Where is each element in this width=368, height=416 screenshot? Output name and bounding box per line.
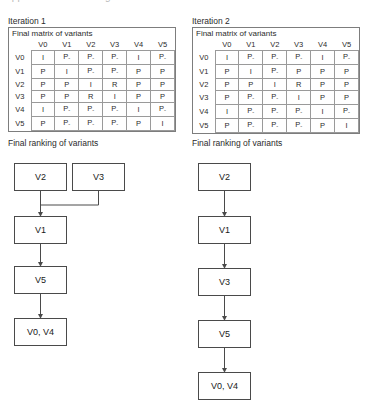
iteration-title-1: Iteration 1 [8,16,46,26]
ranking-node: V0, V4 [198,372,251,400]
matrix-cell: P [31,79,55,91]
matrix-cell: P [215,91,239,105]
matrix-cell: P [215,119,239,133]
matrix-cell: P [215,79,239,91]
matrix-cell: P [151,65,175,79]
matrix-cell: P- [55,103,79,117]
matrix-cell: P [311,119,335,133]
matrix-cell: I [103,91,127,103]
matrix-row-header: V1 [9,65,31,79]
matrix-cell: P- [151,51,175,65]
matrix-cell: R [79,91,103,103]
variant-matrix-2: V0 V1 V2 V3 V4 V5 V0IP-P-P-IP-V1PIP-PPPV… [193,39,359,133]
matrix-cell: P- [287,51,311,65]
ranking-title-1: Final ranking of variants [8,138,98,148]
ranking-node: V3 [72,163,125,191]
matrix-cell: P- [287,105,311,119]
ranking-node: V0, V4 [14,318,67,346]
matrix-cell: P [31,91,55,103]
matrix-row: V2PPIRPP [193,79,359,91]
matrix-cell: I [239,65,263,79]
matrix-row-header: V2 [9,79,31,91]
matrix-cell: P [31,65,55,79]
ranking-node: V5 [198,320,251,348]
matrix-col-header: V0 [215,39,239,51]
matrix-cell: P- [263,65,287,79]
matrix-row: V1PIP-P-PP [9,65,175,79]
matrix-row: V0IP-P-P-IP- [193,51,359,65]
matrix-cell: P- [263,119,287,133]
matrix-cell: P- [335,51,359,65]
iteration-column-2: Iteration 2 Final matrix of variants V0 … [184,0,368,416]
matrix-cell: P- [263,91,287,105]
matrix-cell: P [151,79,175,91]
matrix-body-2: V0IP-P-P-IP-V1PIP-PPPV2PPIRPPV3PP-P-IPPV… [193,51,359,133]
ranking-node: V3 [198,268,251,296]
variant-matrix-1: V0 V1 V2 V3 V4 V5 V0IP-P-P-IP-V1PIP-P-PP… [9,39,175,131]
matrix-header-row: V0 V1 V2 V3 V4 V5 [193,39,359,51]
matrix-cell: I [31,103,55,117]
matrix-cell: P- [79,51,103,65]
matrix-cell: P [31,117,55,131]
matrix-cell: P- [239,91,263,105]
matrix-cell: I [335,119,359,133]
matrix-cell: I [287,91,311,105]
matrix-cell: I [79,79,103,91]
matrix-col-header: V5 [151,39,175,51]
ranking-node: V5 [14,266,67,294]
matrix-cell: P- [55,117,79,131]
matrix-cell: P [127,117,151,131]
matrix-cell: P- [239,105,263,119]
matrix-row-header: V4 [9,103,31,117]
matrix-cell: P- [103,103,127,117]
matrix-cell: I [311,105,335,119]
matrix-row: V4IP-P-P-IP- [193,105,359,119]
matrix-cell: I [311,51,335,65]
matrix-caption-2: Final matrix of variants [193,28,359,39]
matrix-cell: P [127,91,151,103]
ranking-node: V1 [14,216,67,244]
matrix-row-header: V5 [193,119,215,133]
matrix-cell: P [287,65,311,79]
matrix-corner-cell [9,39,31,51]
matrix-row-header: V0 [193,51,215,65]
matrix-cell: P [215,65,239,79]
matrix-row: V1PIP-PPP [193,65,359,79]
matrix-cell: I [263,79,287,91]
matrix-row: V2PPIRPP [9,79,175,91]
matrix-row: V0IP-P-P-IP- [9,51,175,65]
matrix-row: V5PP-P-P-PI [193,119,359,133]
matrix-col-header: V3 [103,39,127,51]
matrix-cell: I [215,105,239,119]
matrix-cell: I [151,117,175,131]
matrix-header-2: V0 V1 V2 V3 V4 V5 [193,39,359,51]
matrix-cell: P [127,65,151,79]
matrix-col-header: V1 [55,39,79,51]
ranking-title-2: Final ranking of variants [192,138,282,148]
matrix-cell: P- [103,117,127,131]
matrix-row-header: V2 [193,79,215,91]
matrix-cell: P [151,91,175,103]
matrix-cell: P- [79,65,103,79]
iteration-column-1: Iteration 1 Final matrix of variants V0 … [0,0,184,416]
matrix-col-header: V1 [239,39,263,51]
matrix-col-header: V2 [263,39,287,51]
matrix-cell: P- [103,65,127,79]
matrix-row-header: V3 [193,91,215,105]
matrix-row-header: V1 [193,65,215,79]
matrix-col-header: V0 [31,39,55,51]
matrix-corner-cell [193,39,215,51]
matrix-cell: P- [79,117,103,131]
matrix-cell: I [127,103,151,117]
matrix-cell: P [335,79,359,91]
matrix-cell: P- [263,105,287,119]
matrix-cell: P- [287,119,311,133]
matrix-cell: I [215,51,239,65]
matrix-cell: I [127,51,151,65]
matrix-header-row: V0 V1 V2 V3 V4 V5 [9,39,175,51]
matrix-cell: I [55,65,79,79]
matrix-cell: P- [103,51,127,65]
matrix-col-header: V4 [311,39,335,51]
matrix-col-header: V5 [335,39,359,51]
matrix-cell: P- [55,51,79,65]
